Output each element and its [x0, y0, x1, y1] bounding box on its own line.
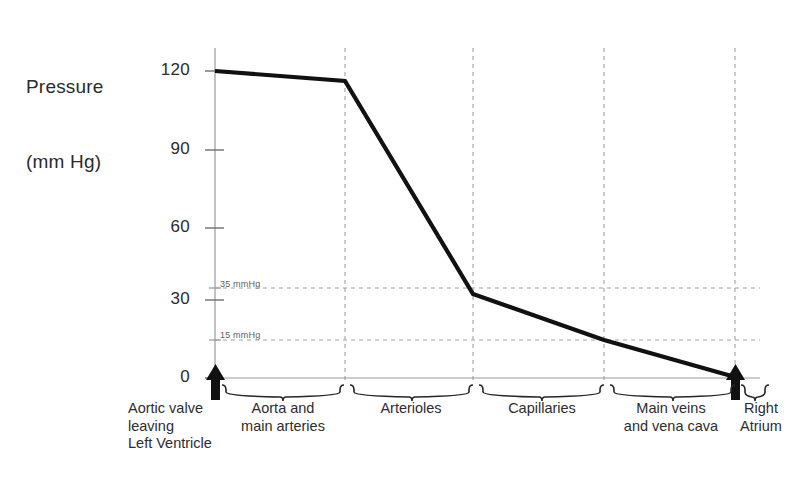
chart-canvas: Pressure (mm Hg) 120 90 60 30 0 35 mmHg … — [0, 0, 804, 478]
x-category-label-arterioles: Arterioles — [352, 400, 470, 418]
segment-brace-main-veins — [610, 385, 735, 401]
segment-brace-arterioles — [350, 385, 473, 401]
right-up-arrow-icon — [726, 364, 745, 400]
x-category-label-capillaries: Capillaries — [483, 400, 601, 418]
x-category-label-aortic-valve: Aortic valve leaving Left Ventricle — [128, 400, 220, 453]
segment-brace-aorta-main-arteries — [222, 385, 344, 401]
x-category-label-aorta-main-arteries: Aorta and main arteries — [224, 400, 342, 435]
x-category-label-right-atrium: Right Atrium — [728, 400, 794, 435]
segment-brace-right-atrium — [741, 385, 769, 401]
left-up-arrow-icon — [206, 364, 225, 400]
x-category-label-main-veins-vena-cava: Main veins and vena cava — [612, 400, 730, 435]
pressure-curve — [215, 71, 735, 377]
segment-brace-capillaries — [479, 385, 604, 401]
